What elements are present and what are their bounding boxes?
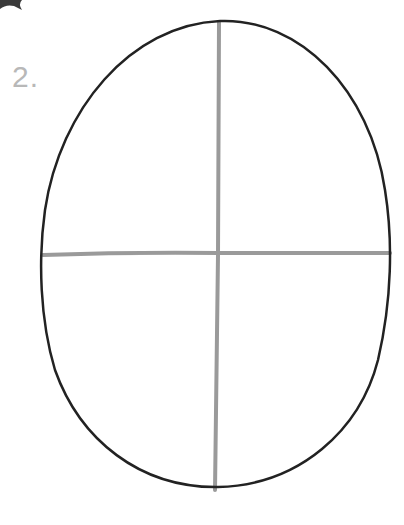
head-oval-drawing bbox=[0, 0, 404, 525]
vertical-guideline bbox=[215, 22, 219, 490]
